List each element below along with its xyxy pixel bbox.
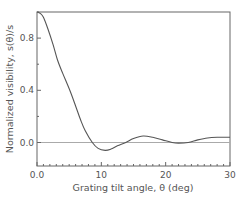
y-tick-label: 0.0 (20, 138, 35, 148)
x-tick-label: 10 (96, 170, 108, 180)
x-axis-ticks: 0.0102030 (30, 162, 236, 180)
x-tick-label: 30 (224, 170, 236, 180)
x-axis-title: Grating tilt angle, θ (deg) (73, 182, 194, 193)
x-tick-label: 0.0 (30, 170, 45, 180)
y-tick-label: 0.4 (20, 85, 35, 95)
data-series-line (37, 12, 230, 150)
y-tick-label: 0.8 (20, 33, 35, 43)
y-axis-title: Normalized visibility, s(θ)/s (4, 25, 15, 153)
line-chart: 0.0102030 0.00.40.8 Grating tilt angle, … (0, 0, 243, 203)
x-tick-label: 20 (160, 170, 172, 180)
y-axis-ticks: 0.00.40.8 (20, 12, 41, 148)
